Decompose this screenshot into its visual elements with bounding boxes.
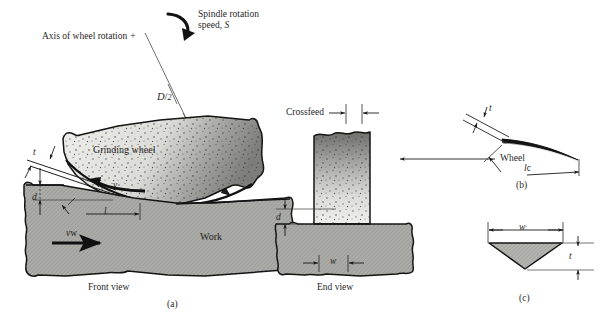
spindle-rotation-speed-label: Spindle rotation speed, S <box>198 9 259 31</box>
end-view-width-label: w <box>330 256 336 267</box>
surface-grinding-figure: Axis of wheel rotation+ Spindle rotation… <box>0 0 602 314</box>
work-speed-label: vw <box>66 228 77 239</box>
front-view-caption: Front view <box>88 282 129 293</box>
crossfeed-label: Crossfeed <box>286 107 324 118</box>
chip-section-thickness-label: t <box>569 251 572 262</box>
panel-d-chip-cross-section <box>488 222 594 280</box>
chip-lc-arrow-right <box>527 172 579 175</box>
chip-t-arrow-down <box>50 146 55 159</box>
spindle-speed-symbol: S <box>224 20 229 30</box>
panel-a-caption: (a) <box>167 299 178 310</box>
panel-b-end-view <box>275 104 495 276</box>
front-depth-of-cut-label: d <box>32 192 37 203</box>
panel-c-chip-profile <box>463 107 579 176</box>
chip-length-subscript: c <box>527 163 531 173</box>
end-view-caption: End view <box>317 282 353 293</box>
end-view-depth-label: d <box>276 212 281 223</box>
wheel-end-view-abrasive-texture <box>314 132 370 224</box>
spindle-rotation-arc <box>168 14 188 31</box>
radius-denominator: 2 <box>168 93 172 102</box>
axis-crosshair-marker: + <box>127 31 135 41</box>
chip-t-arrow-b <box>473 123 477 133</box>
spindle-label-line2: speed, S <box>198 20 259 31</box>
front-chip-thickness-label: t <box>33 147 36 158</box>
workpiece-label: Work <box>200 231 222 243</box>
chip-width-prime-mark: ′ <box>525 224 527 232</box>
panel-b-caption: (b) <box>516 180 527 191</box>
contact-length-label: l <box>104 206 107 217</box>
workpiece-end-view <box>275 222 413 276</box>
wheel-radius-label: D/2 <box>157 91 172 103</box>
chip-t-arrow-a <box>484 107 487 117</box>
axis-label-text: Axis of wheel rotation <box>42 31 127 41</box>
grinding-wheel-label: Grinding wheel <box>93 144 156 156</box>
work-speed-subscript: w <box>70 228 77 238</box>
chip-t-arrow-up <box>25 166 31 178</box>
chip-width-prime-label: w′ <box>519 222 527 233</box>
radius-numerator: D <box>157 91 165 102</box>
chip-profile-thickness-label: t <box>489 103 492 114</box>
end-view-wheel-label: Wheel <box>500 153 525 164</box>
wheel-surface-speed-label: v <box>113 180 117 191</box>
spindle-label-line1: Spindle rotation <box>198 9 259 20</box>
chip-cross-section-triangle <box>489 243 562 269</box>
axis-of-wheel-rotation-label: Axis of wheel rotation+ <box>42 31 136 42</box>
panel-a-front-view <box>24 14 293 276</box>
chip-contact-length-label: lc <box>524 163 531 174</box>
panel-c-caption: (c) <box>519 293 530 304</box>
